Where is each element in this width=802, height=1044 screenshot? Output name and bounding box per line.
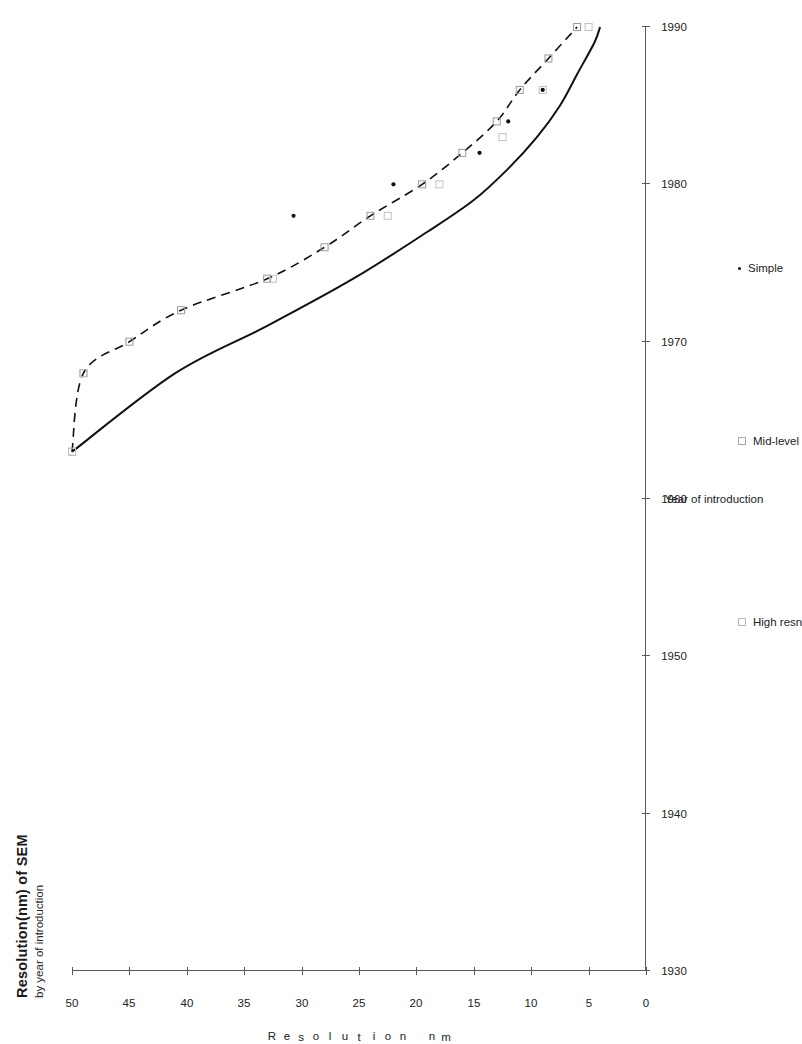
chart-subtitle: by year of introduction	[33, 885, 45, 998]
data-point-marker	[436, 181, 443, 188]
data-point-marker	[291, 214, 295, 218]
y-axis-label-char: i	[372, 1030, 375, 1044]
y-axis-label-char: e	[283, 1030, 289, 1044]
y-axis-label-char: R	[268, 1030, 276, 1044]
x-tick-label: 1970	[661, 336, 687, 348]
x-tick-label: 1990	[661, 21, 687, 33]
y-tick-label: 20	[410, 997, 423, 1009]
legend-item-simple[interactable]: Simple	[738, 262, 783, 274]
y-axis-label-char: o	[312, 1030, 318, 1044]
data-point-marker	[541, 88, 545, 92]
legend-item-mid-level[interactable]: Mid-level	[738, 435, 799, 447]
y-tick-mark	[646, 967, 647, 975]
y-axis-label-char: u	[341, 1030, 347, 1044]
y-tick-label: 10	[525, 997, 538, 1009]
y-tick-label: 40	[180, 997, 193, 1009]
plot-area: 1930194019501960197019801990 05101520253…	[72, 27, 646, 971]
data-point-marker	[391, 182, 395, 186]
y-tick-label: 50	[66, 997, 79, 1009]
legend-square-icon	[738, 437, 746, 445]
data-point-marker	[321, 244, 328, 251]
legend-square-icon	[738, 618, 746, 626]
series-line-mid-level	[72, 27, 577, 452]
y-tick-label: 45	[123, 997, 136, 1009]
data-point-marker	[384, 212, 391, 219]
y-axis-label-char: n	[399, 1030, 405, 1044]
y-tick-label: 30	[295, 997, 308, 1009]
y-tick-label: 15	[467, 997, 480, 1009]
chart-title: Resolution(nm) of SEM	[14, 834, 30, 998]
legend-item-high-resn[interactable]: High resn	[738, 616, 802, 628]
legend-label: High resn	[753, 616, 802, 628]
legend-dot-icon	[738, 267, 741, 270]
y-tick-label: 5	[585, 997, 591, 1009]
data-point-marker	[506, 119, 510, 123]
y-axis-label-char: m	[441, 1030, 451, 1044]
x-tick-label: 1980	[661, 178, 687, 190]
y-axis-label-char: o	[385, 1030, 391, 1044]
legend-label: Simple	[748, 262, 783, 274]
x-tick-label: 1940	[661, 808, 687, 820]
x-tick-label: 1930	[661, 965, 687, 977]
x-tick-label: 1950	[661, 650, 687, 662]
chart-legend: High resnMid-levelSimple	[732, 0, 754, 921]
y-axis-label-char: n	[428, 1030, 434, 1044]
data-point-marker	[477, 151, 481, 155]
data-point-marker	[499, 134, 506, 141]
y-tick-label: 35	[238, 997, 251, 1009]
y-tick-label: 0	[643, 997, 649, 1009]
y-axis-label-char	[415, 1030, 418, 1044]
y-axis-label: Resolution nm	[265, 1032, 454, 1042]
y-axis-label-char: s	[298, 1030, 304, 1044]
data-point-marker	[585, 24, 592, 31]
y-tick-label: 25	[353, 997, 366, 1009]
y-axis-label-char: l	[329, 1030, 332, 1044]
y-axis-label-char: t	[357, 1030, 360, 1044]
series-layer	[72, 27, 646, 971]
legend-label: Mid-level	[753, 435, 799, 447]
